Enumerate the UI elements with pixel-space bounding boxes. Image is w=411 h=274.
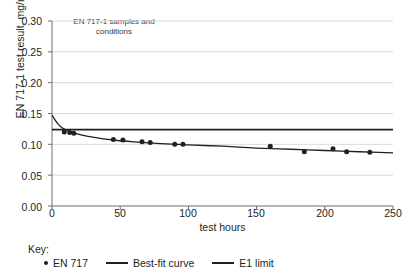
data-point [62, 130, 67, 135]
gridlines [52, 21, 393, 175]
chart-legend: EN 717 Best-fit curve E1 limit [44, 257, 274, 269]
legend-item-bestfit: Best-fit curve [106, 257, 194, 269]
data-point [172, 142, 177, 147]
data-point [330, 146, 335, 151]
legend-item-e1limit: E1 limit [212, 257, 273, 269]
line-marker-icon [106, 262, 128, 264]
data-point [148, 140, 153, 145]
legend-label: Best-fit curve [133, 257, 194, 269]
data-point [140, 139, 145, 144]
data-point [71, 131, 76, 136]
data-point [268, 144, 273, 149]
legend-key-label: Key: [28, 243, 49, 255]
legend-label: E1 limit [239, 257, 273, 269]
chart-figure: EN 717-1 test result, mg/m³ 0.30 0.25 0.… [0, 0, 411, 274]
circle-marker-icon [44, 261, 48, 265]
line-marker-icon [212, 262, 234, 264]
best-fit-curve [52, 115, 393, 153]
data-point [180, 142, 185, 147]
legend-item-en717: EN 717 [44, 257, 88, 269]
data-point [111, 137, 116, 142]
data-point [367, 150, 372, 155]
legend-label: EN 717 [53, 257, 88, 269]
data-point [302, 149, 307, 154]
data-point [120, 138, 125, 143]
plot-area [0, 0, 411, 274]
axis-ticks [48, 21, 393, 210]
data-point [344, 149, 349, 154]
